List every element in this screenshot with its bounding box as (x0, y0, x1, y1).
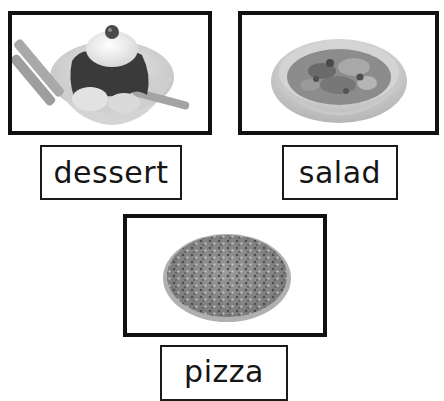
dessert-label: dessert (40, 145, 182, 200)
salad-picture-frame (238, 11, 439, 135)
pizza-label: pizza (160, 345, 288, 401)
clipped-heading-fragment (0, 0, 444, 4)
dessert-picture-frame (8, 11, 212, 135)
pizza-image (127, 218, 323, 333)
salad-label: salad (282, 145, 398, 200)
salad-bowl-image (242, 15, 435, 131)
ice-cream-sundae-image (12, 15, 208, 131)
pizza-picture-frame (123, 214, 327, 337)
